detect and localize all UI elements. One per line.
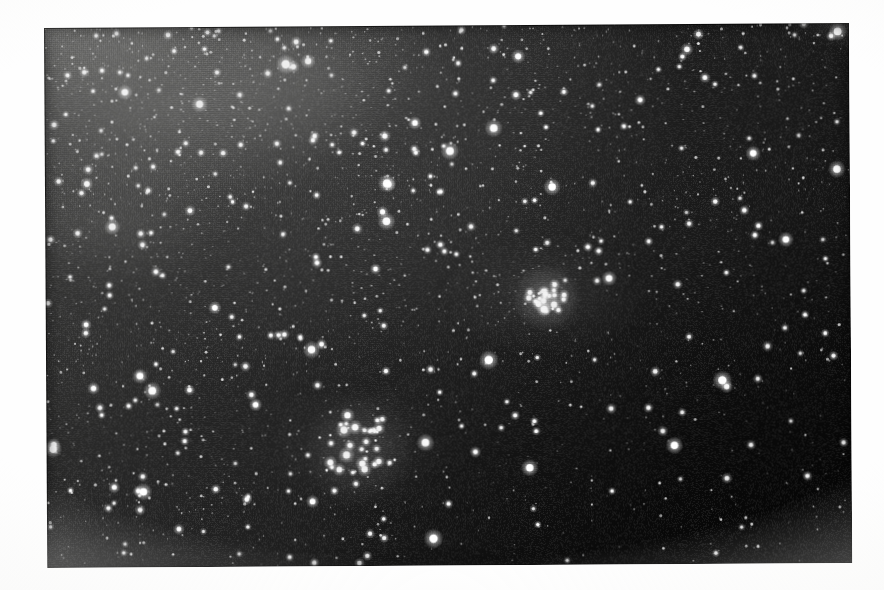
page-canvas: dense Milky Way star field with open sta… xyxy=(0,0,884,590)
photographic-plate xyxy=(44,23,852,568)
plate-image xyxy=(44,23,852,568)
plate-subject: dense Milky Way star field with open sta… xyxy=(0,0,1,1)
plate-caption xyxy=(0,0,1,1)
star-field xyxy=(44,23,852,568)
